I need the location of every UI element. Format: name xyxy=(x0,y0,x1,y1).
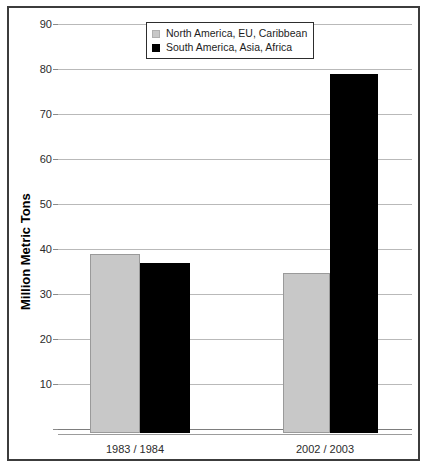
y-tick-label-60: 60 xyxy=(40,154,52,165)
y-tick-label-40: 40 xyxy=(40,244,52,255)
y-tick-label-70: 70 xyxy=(40,109,52,120)
tick-40 xyxy=(53,249,58,250)
bar-2002-2003-north-america-eu-caribbean xyxy=(283,273,330,433)
tick-60 xyxy=(53,159,58,160)
tick-0 xyxy=(53,429,58,430)
plot-area xyxy=(58,24,412,433)
gridline-80 xyxy=(58,69,412,70)
x-tick-label-1983-1984: 1983 / 1984 xyxy=(75,443,195,455)
bar-chart: Million Metric Tons 90 80 70 60 50 40 30… xyxy=(0,0,427,470)
tick-90 xyxy=(53,24,58,25)
y-tick-label-80: 80 xyxy=(40,64,52,75)
tick-70 xyxy=(53,114,58,115)
tick-50 xyxy=(53,204,58,205)
y-axis-title: Million Metric Tons xyxy=(18,150,33,310)
legend-label-south-america: South America, Asia, Africa xyxy=(166,42,292,53)
x-tick-label-2002-2003: 2002 / 2003 xyxy=(270,443,380,455)
gray-square-icon xyxy=(152,30,160,38)
legend-item-south-america: South America, Asia, Africa xyxy=(152,41,307,54)
tick-10 xyxy=(53,384,58,385)
tick-80 xyxy=(53,69,58,70)
legend-label-north-america: North America, EU, Caribbean xyxy=(166,28,307,39)
black-square-icon xyxy=(152,44,160,52)
y-tick-label-10: 10 xyxy=(40,379,52,390)
y-tick-label-20: 20 xyxy=(40,334,52,345)
bar-1983-1984-south-america-asia-africa xyxy=(140,263,190,433)
x-axis-line xyxy=(58,434,412,435)
y-tick-label-90: 90 xyxy=(40,19,52,30)
tick-30 xyxy=(53,294,58,295)
legend-item-north-america: North America, EU, Caribbean xyxy=(152,27,307,40)
tick-20 xyxy=(53,339,58,340)
bar-2002-2003-south-america-asia-africa xyxy=(330,74,378,433)
chart-legend: North America, EU, Caribbean South Ameri… xyxy=(146,22,314,59)
y-tick-label-30: 30 xyxy=(40,289,52,300)
bar-1983-1984-north-america-eu-caribbean xyxy=(90,254,140,433)
y-tick-label-50: 50 xyxy=(40,199,52,210)
